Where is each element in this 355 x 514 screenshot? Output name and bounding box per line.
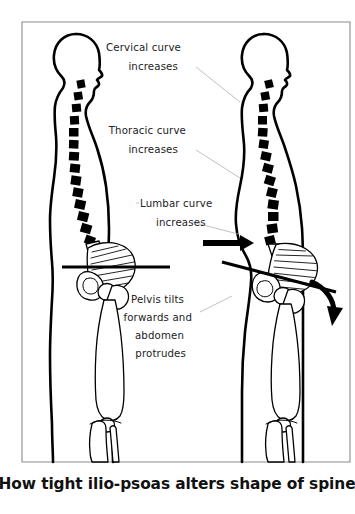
pelvis-label-line1: Pelvis tilts [131, 294, 184, 305]
cervical-label-line1: Cervical curve [106, 42, 181, 53]
spine-posture-diagram: Cervical curve increases Thoracic curve … [0, 0, 355, 514]
left-tibia [90, 421, 108, 462]
right-tibia [266, 421, 284, 462]
pelvis-label-line4: protrudes [135, 348, 186, 359]
thoracic-label-line1: Thoracic curve [108, 125, 186, 136]
pelvis-label-line3: abdomen [135, 330, 184, 341]
figure-caption: How tight ilio-psoas alters shape of spi… [0, 475, 355, 493]
lumbar-label-line1: Lumbar curve [140, 198, 212, 209]
cervical-label-line2: increases [128, 61, 178, 72]
pelvis-label-line2: forwards and [123, 312, 192, 323]
thoracic-label-line2: increases [128, 144, 178, 155]
anatomy-figure: Cervical curve increases Thoracic curve … [0, 0, 355, 514]
lumbar-label-line2: increases [156, 217, 206, 228]
